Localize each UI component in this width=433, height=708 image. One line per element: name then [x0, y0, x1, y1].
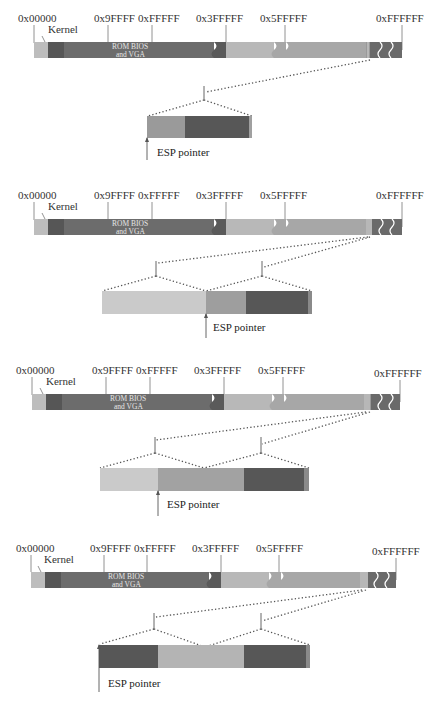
stack-strip [102, 291, 312, 314]
address-label: 0xFFFFFF [376, 189, 424, 201]
kernel-label: Kernel [44, 553, 74, 565]
address-label: 0x3FFFFF [196, 12, 243, 24]
memory-diagram: 0x00000 0x9FFFF 0xFFFFF 0x3FFFFF 0x5FFFF… [0, 0, 433, 708]
memory-bar: ROM BIOS and VGA [34, 219, 402, 236]
esp-pointer-label: ESP pointer [157, 146, 210, 158]
address-label: 0xFFFFFF [372, 545, 420, 557]
address-label: 0x3FFFFF [196, 189, 243, 201]
vga-label: and VGA [114, 402, 143, 411]
address-label: 0xFFFFF [138, 189, 180, 201]
esp-pointer-label: ESP pointer [213, 321, 266, 333]
vga-label: and VGA [116, 227, 145, 236]
kernel-label: Kernel [46, 375, 76, 387]
kernel-label: Kernel [48, 23, 78, 35]
zoom-lines [102, 237, 370, 291]
address-label: 0x5FFFFF [256, 542, 303, 554]
address-label: 0x3FFFFF [192, 542, 239, 554]
zoom-lines [100, 412, 370, 468]
esp-pointer-label: ESP pointer [167, 498, 220, 510]
address-label: 0x9FFFF [94, 12, 135, 24]
zoom-lines [100, 590, 366, 647]
memory-bar: ROM BIOS and VGA [31, 572, 396, 589]
stack-strip [100, 468, 309, 491]
stack-strip [147, 116, 252, 138]
address-label: 0xFFFFF [136, 364, 178, 376]
stage-1: 0x00000 0x9FFFF 0xFFFFF 0x3FFFFF 0x5FFFF… [18, 12, 424, 160]
esp-pointer-label: ESP pointer [108, 677, 161, 689]
vga-label: and VGA [112, 580, 141, 589]
memory-bar: ROM BIOS and VGA [32, 394, 400, 411]
address-label: 0xFFFFFF [376, 12, 424, 24]
address-label: 0x5FFFFF [260, 189, 307, 201]
address-label: 0x5FFFFF [258, 364, 305, 376]
stack-strip [99, 645, 310, 668]
address-label: 0xFFFFF [134, 542, 176, 554]
stage-2: 0x00000 0x9FFFF 0xFFFFF 0x3FFFFF 0x5FFFF… [18, 189, 424, 338]
kernel-label: Kernel [48, 200, 78, 212]
stage-3: 0x00000 0x9FFFF 0xFFFFF 0x3FFFFF 0x5FFFF… [16, 364, 422, 516]
address-label: 0x9FFFF [94, 189, 135, 201]
memory-bar: ROM BIOS and VGA [34, 42, 402, 59]
address-label: 0x9FFFF [90, 542, 131, 554]
stage-4: 0x00000 0x9FFFF 0xFFFFF 0x3FFFFF 0x5FFFF… [16, 542, 420, 692]
address-label: 0x9FFFF [92, 364, 133, 376]
address-label: 0xFFFFF [138, 12, 180, 24]
address-label: 0x3FFFFF [194, 364, 241, 376]
zoom-lines [148, 60, 370, 116]
address-label: 0x5FFFFF [260, 12, 307, 24]
address-label: 0xFFFFFF [374, 367, 422, 379]
vga-label: and VGA [116, 50, 145, 59]
